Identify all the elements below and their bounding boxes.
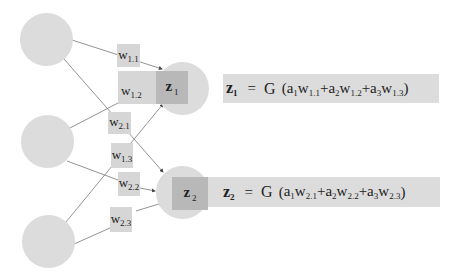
eq1-lhs: z1 (226, 79, 238, 98)
weight-label-w1-2: w1.2 (121, 84, 142, 100)
output-square-z1: z1 (156, 71, 188, 104)
weight-box-w2-1: w2.1 (108, 112, 131, 134)
eq2-function: G (261, 183, 273, 201)
eq1-equals: = (248, 80, 256, 97)
weight-label-w1-3: w1.3 (112, 148, 133, 164)
eq1-term-3: a3w1.3 (370, 80, 403, 98)
weight-box-w2-3: w2.3 (110, 207, 132, 232)
eq1-term-1: a1w1.1+ (287, 80, 329, 98)
eq1-close-paren: ) (403, 80, 408, 97)
eq1-function: G (264, 80, 276, 98)
eq2-equals: = (245, 184, 253, 201)
weight-box-w1-3: w1.3 (111, 143, 133, 168)
input-node-a1 (20, 13, 73, 66)
eq2-close-paren: ) (400, 184, 405, 201)
output-label-z2: z2 (183, 184, 196, 203)
edge-a2-z2-tail (140, 188, 155, 191)
equation-z2: z2 = G ( a1w2.1+ a2w2.2+ a3w2.3 ) (208, 177, 440, 207)
weight-label-w1-1: w1.1 (118, 48, 139, 64)
weight-label-w2-1: w2.1 (109, 115, 130, 131)
eq2-term-3: a3w2.3 (367, 183, 400, 201)
equation-z1: z1 = G ( a1w1.1+ a2w1.2+ a3w1.3 ) (223, 74, 439, 103)
eq1-term-2: a2w1.2+ (328, 80, 370, 98)
edge-a3-z2 (74, 228, 110, 244)
weight-label-w2-2: w2.2 (119, 176, 140, 192)
weight-box-w1-1: w1.1 (117, 44, 140, 67)
eq2-lhs: z2 (223, 183, 235, 202)
output-label-z1: z1 (165, 78, 178, 97)
eq2-term-1: a1w2.1+ (284, 183, 326, 201)
weight-label-w2-3: w2.3 (111, 212, 132, 228)
output-square-z2: z2 (172, 177, 208, 210)
weight-box-w2-2: w2.2 (118, 172, 140, 196)
eq2-term-2: a2w2.2+ (325, 183, 367, 201)
input-node-a2 (21, 115, 74, 168)
input-node-a3 (22, 215, 75, 268)
